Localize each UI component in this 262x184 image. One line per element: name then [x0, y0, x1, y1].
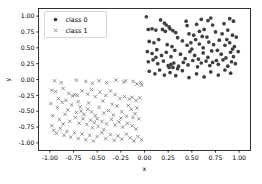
x-tick-label: -0.75 [66, 154, 82, 161]
data-point [202, 75, 206, 79]
data-point [171, 66, 175, 70]
y-tick-label: 0.25 [21, 60, 35, 67]
data-point [223, 68, 227, 72]
x-tick-label: -0.50 [89, 154, 105, 161]
data-point [158, 68, 162, 72]
data-point [231, 33, 235, 37]
y-tick-label: 0.75 [21, 28, 35, 35]
axes-area: -1.00-0.75-0.50-0.250.000.250.500.751.00… [4, 9, 251, 173]
data-point [147, 69, 151, 73]
data-point [216, 73, 220, 77]
data-point [181, 69, 185, 73]
data-point [145, 15, 149, 19]
data-point [220, 32, 224, 36]
y-axis-label: y [4, 77, 12, 81]
y-tick-label: -0.25 [18, 92, 34, 99]
data-point [236, 50, 240, 54]
y-tick-label: -0.75 [18, 123, 34, 130]
data-point [167, 66, 171, 70]
data-point [201, 51, 205, 55]
y-tick-label: -0.50 [18, 107, 34, 114]
data-point [150, 27, 154, 31]
data-point [206, 19, 210, 23]
x-tick-label: 1.00 [232, 154, 246, 161]
data-point [183, 57, 187, 61]
data-point [221, 58, 225, 62]
data-point [172, 61, 176, 65]
data-point [159, 18, 163, 22]
data-point [228, 41, 232, 45]
data-point [200, 35, 204, 39]
data-point [196, 65, 200, 69]
data-point [229, 71, 233, 75]
data-point [230, 60, 234, 64]
data-point [192, 33, 196, 37]
data-point [189, 41, 193, 45]
data-point [145, 50, 149, 54]
legend-label: class 0 [66, 16, 88, 24]
data-point [176, 36, 180, 40]
data-point [202, 28, 206, 32]
data-point [146, 60, 150, 64]
legend: class 0class 1 [45, 12, 107, 38]
data-point [168, 71, 172, 75]
y-tick-label: 0.50 [21, 44, 35, 51]
data-point [225, 38, 229, 42]
data-point [170, 45, 174, 49]
data-point [207, 40, 211, 44]
data-point [154, 55, 158, 59]
data-point [201, 46, 205, 50]
data-point [155, 48, 159, 52]
data-point [198, 29, 202, 33]
data-point [195, 72, 199, 76]
data-point [232, 55, 236, 59]
data-point [195, 23, 199, 27]
data-point [154, 28, 158, 32]
data-point [209, 70, 213, 74]
data-point [198, 42, 202, 46]
data-point [174, 74, 178, 78]
data-point [164, 50, 168, 54]
x-tick-label: -0.25 [113, 154, 129, 161]
legend-label: class 1 [66, 27, 88, 35]
data-point [169, 55, 173, 59]
data-point [211, 23, 215, 27]
data-point [150, 52, 154, 56]
data-point [185, 24, 189, 28]
data-point [160, 54, 164, 58]
data-point [174, 31, 178, 35]
data-point [163, 29, 167, 33]
x-tick-label: -1.00 [42, 154, 58, 161]
y-tick-label: -1.00 [18, 139, 34, 146]
data-point [194, 38, 198, 42]
data-point [226, 28, 230, 32]
data-point [191, 59, 195, 63]
data-point [190, 47, 194, 51]
data-point [193, 54, 197, 58]
chart-canvas: -1.00-0.75-0.50-0.250.000.250.500.751.00… [0, 0, 262, 184]
data-point [176, 67, 180, 71]
legend-marker-circle-icon [54, 18, 58, 22]
data-point [187, 76, 191, 80]
data-point [232, 19, 236, 23]
data-point [234, 35, 238, 39]
data-point [179, 52, 183, 56]
data-point [163, 73, 167, 77]
x-tick-label: 0.25 [161, 154, 175, 161]
data-point [212, 43, 216, 47]
data-point [146, 28, 150, 32]
data-point [181, 39, 185, 43]
data-point [215, 59, 219, 63]
data-point [173, 48, 177, 52]
data-point [234, 62, 238, 66]
data-point [204, 59, 208, 63]
y-tick-label: 0.00 [21, 76, 35, 83]
data-point [211, 61, 215, 65]
data-point [205, 35, 209, 39]
x-tick-label: 0.00 [138, 154, 152, 161]
data-point [186, 63, 190, 67]
data-point [181, 61, 185, 65]
data-point [217, 38, 221, 42]
data-point [210, 49, 214, 53]
data-point [197, 57, 201, 61]
